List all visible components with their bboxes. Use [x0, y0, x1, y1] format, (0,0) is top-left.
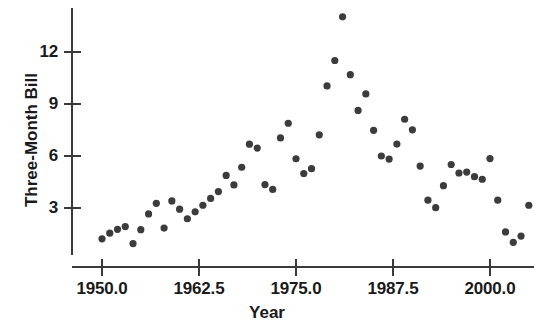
- data-point: [471, 173, 478, 180]
- data-point: [517, 232, 524, 239]
- data-point: [199, 202, 206, 209]
- data-point: [269, 186, 276, 193]
- data-point: [160, 225, 167, 232]
- data-point: [137, 226, 144, 233]
- xtick-label-1987: 1987.5: [343, 279, 443, 299]
- data-point: [292, 155, 299, 162]
- data-point: [331, 57, 338, 64]
- data-points-group: [98, 13, 532, 247]
- data-point: [401, 116, 408, 123]
- data-point: [106, 230, 113, 237]
- data-point: [502, 228, 509, 235]
- data-point: [424, 197, 431, 204]
- data-point: [285, 120, 292, 127]
- data-point: [153, 200, 160, 207]
- data-point: [261, 181, 268, 188]
- data-point: [386, 156, 393, 163]
- data-point: [238, 164, 245, 171]
- data-point: [316, 131, 323, 138]
- data-point: [378, 152, 385, 159]
- data-point: [463, 169, 470, 176]
- data-point: [417, 162, 424, 169]
- data-point: [168, 197, 175, 204]
- x-axis-title: Year: [0, 303, 534, 323]
- y-axis-title: Three-Month Bill: [22, 35, 42, 245]
- data-point: [176, 206, 183, 213]
- xtick-label-1975: 1975.0: [246, 279, 346, 299]
- data-point: [525, 202, 532, 209]
- xtick-label-2000: 2000.0: [440, 279, 534, 299]
- data-point: [145, 210, 152, 217]
- data-point: [362, 90, 369, 97]
- data-point: [207, 195, 214, 202]
- data-point: [510, 239, 517, 246]
- data-point: [432, 204, 439, 211]
- data-point: [98, 235, 105, 242]
- axes-group: [64, 8, 534, 276]
- data-point: [277, 134, 284, 141]
- data-point: [440, 182, 447, 189]
- data-point: [323, 82, 330, 89]
- data-point: [122, 223, 129, 230]
- data-point: [192, 208, 199, 215]
- data-point: [494, 197, 501, 204]
- three-month-bill-scatter-chart: 12 9 6 3 1950.0 1962.5 1975.0 1987.5 200…: [0, 0, 534, 329]
- data-point: [129, 240, 136, 247]
- data-point: [370, 127, 377, 134]
- data-point: [354, 107, 361, 114]
- data-point: [246, 141, 253, 148]
- data-point: [339, 13, 346, 20]
- data-point: [254, 144, 261, 151]
- data-point: [486, 155, 493, 162]
- data-point: [448, 161, 455, 168]
- data-point: [230, 181, 237, 188]
- data-point: [223, 172, 230, 179]
- data-point: [393, 140, 400, 147]
- data-point: [114, 226, 121, 233]
- data-point: [455, 169, 462, 176]
- data-point: [300, 170, 307, 177]
- data-point: [409, 126, 416, 133]
- data-point: [184, 215, 191, 222]
- xtick-label-1962: 1962.5: [149, 279, 249, 299]
- data-point: [479, 176, 486, 183]
- xtick-label-1950: 1950.0: [52, 279, 152, 299]
- data-point: [215, 188, 222, 195]
- data-point: [308, 165, 315, 172]
- data-point: [347, 71, 354, 78]
